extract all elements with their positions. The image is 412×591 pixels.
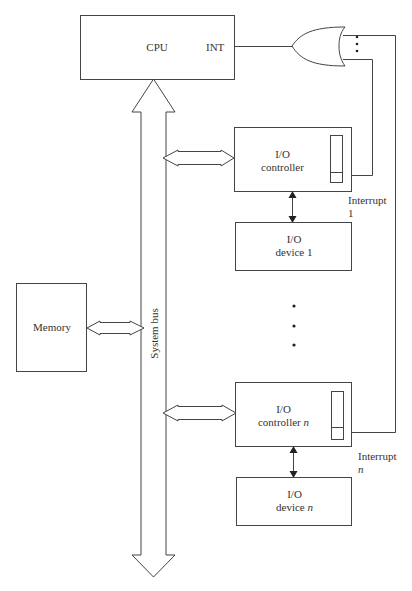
interrupt-1-label: Interrupt 1 <box>348 194 408 220</box>
interrupt-n-label: Interrupt n <box>358 450 412 476</box>
device-1-label: I/O device 1 <box>236 233 352 259</box>
memory-bus-arrow <box>87 321 144 335</box>
controller-1-bus-arrow <box>163 150 234 166</box>
system-bus-label: System bus <box>148 304 161 364</box>
controller-n-label: I/O controller n <box>236 403 331 429</box>
controller-1-label: I/O controller <box>235 148 330 174</box>
controller-n-bus-arrow <box>163 405 236 421</box>
device-n-label: I/O device n <box>237 488 352 514</box>
controller-1-register <box>331 136 343 183</box>
memory-label: Memory <box>17 321 87 334</box>
or-gate-icon <box>292 27 345 66</box>
controller-n-register <box>332 392 344 440</box>
cpu-label: CPU <box>137 41 177 54</box>
int-label: INT <box>206 41 232 54</box>
